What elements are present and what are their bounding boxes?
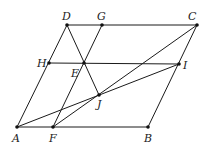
segment-BC [148, 25, 197, 127]
segments [17, 25, 197, 127]
label-A: A [11, 132, 20, 145]
point-A [15, 125, 19, 129]
segment-DJ [67, 25, 99, 95]
label-F: F [48, 132, 57, 145]
labels: AFBCDGHEIJ [11, 10, 197, 145]
point-H [47, 61, 51, 65]
point-E [82, 61, 86, 65]
point-B [146, 125, 150, 129]
label-B: B [143, 132, 152, 145]
point-G [100, 23, 104, 27]
label-H: H [36, 57, 47, 70]
point-I [177, 62, 181, 66]
label-J: J [95, 98, 102, 111]
label-D: D [61, 10, 71, 23]
point-F [51, 125, 55, 129]
geometry-diagram: AFBCDGHEIJ [0, 0, 212, 152]
label-E: E [70, 67, 79, 80]
points [15, 23, 199, 129]
label-C: C [188, 10, 197, 23]
segment-DA [17, 25, 67, 127]
segment-HI [49, 63, 179, 64]
label-I: I [182, 59, 188, 72]
point-J [97, 93, 101, 97]
point-C [195, 23, 199, 27]
point-D [65, 23, 69, 27]
label-G: G [97, 10, 106, 23]
